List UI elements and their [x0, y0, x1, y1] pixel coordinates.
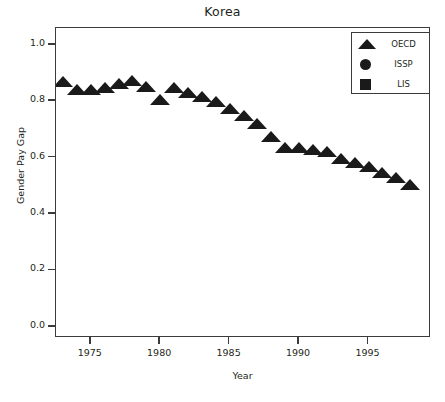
y-tick-label: 0.0	[5, 319, 45, 330]
x-tick-label: 1980	[134, 347, 184, 358]
x-tick-mark	[228, 337, 230, 344]
legend-label: LIS	[382, 79, 429, 89]
triangle-marker-icon	[352, 34, 382, 54]
data-point-marker	[247, 118, 267, 129]
y-axis-label: Gender Pay Gap	[15, 101, 26, 231]
data-point-marker	[150, 94, 170, 105]
x-tick-label: 1985	[204, 347, 254, 358]
legend-item-lis[interactable]: LIS	[352, 74, 429, 94]
data-point-marker	[400, 179, 420, 190]
y-tick-mark	[48, 43, 55, 45]
circle-marker-icon-shape	[360, 59, 371, 70]
chart-title: Korea	[0, 4, 445, 19]
square-marker-icon	[352, 74, 382, 94]
chart-legend: OECDISSPLIS	[351, 32, 430, 94]
x-tick-mark	[158, 337, 160, 344]
x-tick-label: 1975	[65, 347, 115, 358]
x-tick-label: 1990	[273, 347, 323, 358]
legend-label: ISSP	[382, 59, 429, 69]
data-point-marker	[261, 131, 281, 142]
x-tick-mark	[367, 337, 369, 344]
y-tick-mark	[48, 212, 55, 214]
x-axis-label: Year	[55, 370, 430, 381]
y-tick-mark	[48, 99, 55, 101]
triangle-marker-icon-shape	[358, 39, 376, 49]
y-tick-label: 1.0	[5, 37, 45, 48]
x-tick-mark	[89, 337, 91, 344]
legend-label: OECD	[382, 39, 429, 49]
x-tick-mark	[297, 337, 299, 344]
x-tick-label: 1995	[343, 347, 393, 358]
legend-item-issp[interactable]: ISSP	[352, 54, 429, 74]
y-tick-mark	[48, 325, 55, 327]
data-point-marker	[136, 81, 156, 92]
y-tick-label: 0.2	[5, 262, 45, 273]
chart-figure: Korea 0.00.20.40.60.81.0 197519801985199…	[0, 0, 445, 402]
circle-marker-icon	[352, 54, 382, 74]
y-tick-mark	[48, 156, 55, 158]
legend-item-oecd[interactable]: OECD	[352, 34, 429, 54]
square-marker-icon-shape	[360, 79, 371, 90]
y-tick-mark	[48, 269, 55, 271]
